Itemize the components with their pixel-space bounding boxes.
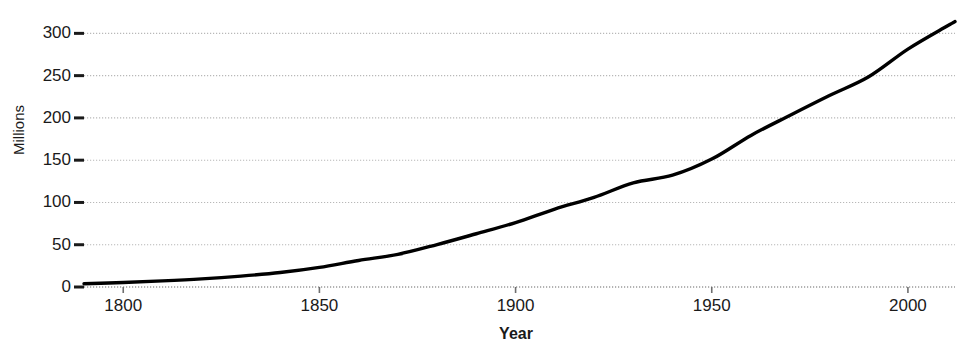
- gridlines: [84, 33, 955, 287]
- y-axis-title: Millions: [10, 105, 27, 155]
- y-tick-label: 50: [0, 235, 71, 255]
- population-line-chart: 050100150200250300 18001850190019502000 …: [0, 0, 961, 351]
- x-tick-label: 1850: [300, 296, 338, 316]
- x-axis-title: Year: [499, 325, 533, 343]
- x-tick-label: 1950: [693, 296, 731, 316]
- y-tick-label: 0: [0, 277, 71, 297]
- x-tick-label: 1900: [497, 296, 535, 316]
- y-tick-label: 250: [0, 66, 71, 86]
- y-tick-label: 300: [0, 23, 71, 43]
- y-tick-label: 100: [0, 192, 71, 212]
- x-tick-label: 2000: [889, 296, 927, 316]
- plot-area: [0, 0, 961, 351]
- y-axis-tick-marks: [74, 33, 84, 287]
- x-tick-label: 1800: [104, 296, 142, 316]
- x-axis-tick-marks: [123, 287, 908, 293]
